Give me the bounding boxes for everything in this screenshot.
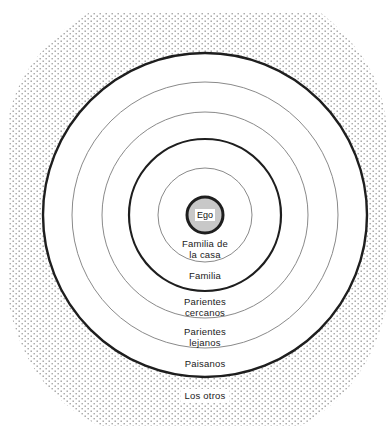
label-familia: Familia bbox=[189, 270, 221, 281]
label-ego: Ego bbox=[195, 209, 215, 221]
kinship-circles-diagram: Ego Familia de la casa Familia Parientes… bbox=[0, 0, 391, 429]
label-familia-de-la-casa: Familia de la casa bbox=[182, 238, 228, 260]
label-parientes-cercanos: Parientes cercanos bbox=[184, 296, 226, 318]
label-los-otros: Los otros bbox=[181, 389, 230, 402]
label-paisanos: Paisanos bbox=[185, 358, 226, 369]
label-parientes-lejanos: Parientes lejanos bbox=[184, 326, 226, 348]
